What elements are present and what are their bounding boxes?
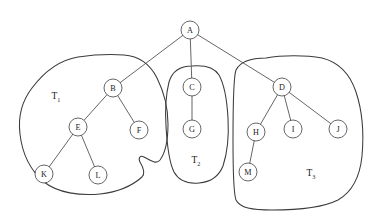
subtree-label-t3: T3: [307, 168, 316, 180]
node-label-l: L: [95, 171, 100, 180]
node-label-d: D: [279, 83, 285, 92]
subtree-label-t1: T1: [52, 91, 61, 103]
node-label-c: C: [189, 83, 195, 92]
tree-edge-b-f: [118, 96, 135, 123]
subtree-label-layer: T1T2T3: [52, 91, 316, 180]
tree-node-m[interactable]: M: [239, 163, 257, 181]
tree-edge-h-m: [250, 141, 254, 163]
node-label-i: I: [292, 125, 295, 134]
node-label-k: K: [41, 170, 47, 179]
tree-node-k[interactable]: K: [35, 165, 53, 183]
node-label-e: E: [75, 123, 80, 132]
subtree-label-subscript-t1: 1: [57, 96, 60, 103]
tree-edge-layer: [49, 35, 331, 167]
tree-node-e[interactable]: E: [69, 118, 87, 136]
tree-edge-e-k: [49, 134, 72, 166]
node-label-g: G: [189, 125, 195, 134]
tree-edge-d-h: [261, 95, 278, 124]
tree-edge-b-e: [84, 95, 107, 121]
tree-edge-a-b: [120, 35, 183, 82]
tree-node-f[interactable]: F: [130, 121, 148, 139]
tree-node-i[interactable]: I: [284, 120, 302, 138]
tree-diagram-canvas: ABCDEFGHIJKLM T1T2T3: [0, 0, 380, 224]
subtree-label-t2: T2: [192, 155, 201, 167]
tree-node-g[interactable]: G: [183, 120, 201, 138]
tree-node-d[interactable]: D: [273, 78, 291, 96]
subtree-label-subscript-t3: 3: [312, 173, 315, 180]
node-label-b: B: [110, 84, 116, 93]
node-label-m: M: [244, 168, 252, 177]
tree-edge-e-l: [81, 135, 94, 166]
tree-node-j[interactable]: J: [329, 120, 347, 138]
tree-node-c[interactable]: C: [183, 78, 201, 96]
subtree-label-subscript-t2: 2: [197, 160, 200, 167]
tree-node-l[interactable]: L: [89, 166, 107, 184]
tree-node-a[interactable]: A: [181, 21, 199, 39]
tree-diagram-svg: ABCDEFGHIJKLM T1T2T3: [0, 0, 380, 224]
tree-edge-d-j: [289, 92, 331, 123]
node-label-f: F: [137, 126, 142, 135]
node-label-h: H: [253, 128, 259, 137]
tree-edge-a-c: [190, 39, 191, 78]
node-label-a: A: [187, 26, 193, 35]
tree-edge-d-i: [284, 96, 290, 121]
tree-node-h[interactable]: H: [247, 123, 265, 141]
tree-node-b[interactable]: B: [104, 79, 122, 97]
